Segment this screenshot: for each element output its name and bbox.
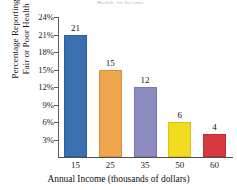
- y-axis-tick-label: 15%: [28, 66, 54, 75]
- bar[interactable]: [99, 70, 122, 158]
- bar[interactable]: [203, 134, 226, 157]
- bar-chart-figure: Health, by Income Percentage Reporting F…: [0, 0, 237, 190]
- x-axis-line: [58, 157, 233, 158]
- x-axis-title: Annual Income (thousands of dollars): [0, 174, 237, 185]
- bar-series: 21151264: [58, 17, 232, 157]
- bar[interactable]: [134, 87, 157, 157]
- y-axis-tick-label: 3%: [28, 136, 54, 145]
- x-axis-tick-label: 60: [198, 160, 232, 170]
- bar-value-label: 15: [95, 59, 125, 68]
- y-axis-tick-label: 12%: [28, 83, 54, 92]
- y-axis-tick-labels: 24%21%18%15%12%9%6%3%: [25, 0, 54, 190]
- x-axis-tick-label: 35: [128, 160, 162, 170]
- x-axis-tick-label: 25: [93, 160, 127, 170]
- bar-value-label: 6: [165, 111, 195, 120]
- y-axis-tick-label: 21%: [28, 31, 54, 40]
- y-axis-tick-label: 18%: [28, 48, 54, 57]
- bar-value-label: 21: [60, 24, 90, 33]
- y-axis-title-line-1: Percentage Reporting: [10, 0, 21, 112]
- x-axis-tick-label: 15: [58, 160, 92, 170]
- bar[interactable]: [168, 122, 191, 157]
- y-axis-tick-label: 6%: [28, 118, 54, 127]
- x-axis-tick-label: 50: [163, 160, 197, 170]
- y-axis-tick-label: 24%: [28, 13, 54, 22]
- bar[interactable]: [64, 35, 87, 158]
- bar-value-label: 12: [130, 76, 160, 85]
- y-axis-tick-label: 9%: [28, 101, 54, 110]
- bar-value-label: 4: [200, 123, 230, 132]
- chart-title-cropped: Health, by Income: [72, 0, 168, 4]
